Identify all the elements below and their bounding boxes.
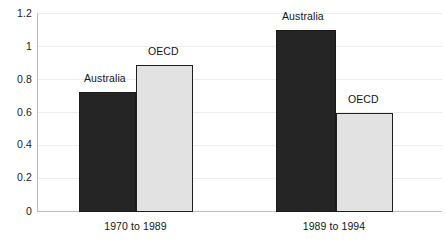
y-axis-tick-label-0.8: 0.8 bbox=[0, 74, 32, 84]
gridline-1 bbox=[38, 46, 442, 47]
x-axis-category-label-2: 1989 to 1994 bbox=[275, 221, 393, 232]
bar-oecd-1989-to-1994 bbox=[336, 113, 393, 212]
x-axis-category-label-1: 1970 to 1989 bbox=[78, 221, 193, 232]
y-axis-tick-label-1.2: 1.2 bbox=[0, 8, 32, 18]
bar-oecd-1970-to-1989 bbox=[136, 65, 193, 212]
y-axis-tick-label-0: 0 bbox=[0, 206, 32, 216]
y-axis-tick-label-0.2: 0.2 bbox=[0, 172, 32, 182]
bar-australia-1970-to-1989 bbox=[79, 92, 136, 212]
y-axis-tick-label-0.4: 0.4 bbox=[0, 139, 32, 149]
y-axis-tick-label-1: 1 bbox=[0, 41, 32, 51]
bar-label-australia-1989-to-1994: Australia bbox=[282, 11, 324, 22]
bar-australia-1989-to-1994 bbox=[276, 30, 336, 212]
bar-label-oecd-1970-to-1989: OECD bbox=[148, 46, 179, 57]
gridline-1.2 bbox=[38, 13, 442, 14]
bar-label-australia-1970-to-1989: Australia bbox=[84, 73, 126, 84]
plot-area bbox=[37, 13, 442, 212]
bar-label-oecd-1989-to-1994: OECD bbox=[348, 94, 379, 105]
y-axis-tick-label-0.6: 0.6 bbox=[0, 107, 32, 117]
bar-chart: 1.2 1 0.8 0.6 0.4 0.2 0 Australia OECD A… bbox=[0, 0, 446, 244]
